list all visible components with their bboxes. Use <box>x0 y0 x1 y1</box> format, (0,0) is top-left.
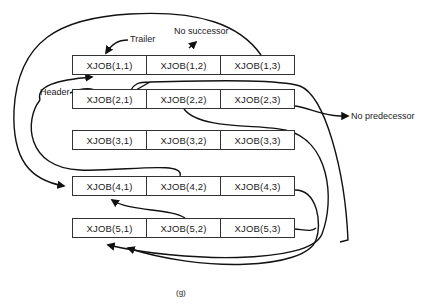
job-cell: XJOB(3,1) <box>73 131 147 149</box>
job-row-3: XJOB(3,1) XJOB(3,2) XJOB(3,3) <box>72 130 295 150</box>
figure-caption: (g) <box>176 288 186 297</box>
job-cell: XJOB(4,2) <box>147 177 221 195</box>
job-cell: XJOB(5,1) <box>73 219 147 237</box>
job-cell: XJOB(1,1) <box>73 56 147 74</box>
trailer-label: Trailer <box>130 34 155 44</box>
no-successor-label: No successor <box>174 26 229 36</box>
job-cell: XJOB(3,2) <box>147 131 221 149</box>
job-cell: XJOB(2,1) <box>73 90 147 108</box>
job-cell: XJOB(2,2) <box>147 90 221 108</box>
job-row-5: XJOB(5,1) XJOB(5,2) XJOB(5,3) <box>72 218 295 238</box>
job-cell: XJOB(1,3) <box>221 56 294 74</box>
connector-arrows <box>0 0 436 308</box>
header-label: Header <box>40 87 70 97</box>
job-cell: XJOB(1,2) <box>147 56 221 74</box>
job-cell: XJOB(5,2) <box>147 219 221 237</box>
no-predecessor-label: No predecessor <box>351 111 415 121</box>
job-row-4: XJOB(4,1) XJOB(4,2) XJOB(4,3) <box>72 176 295 196</box>
job-cell: XJOB(4,3) <box>221 177 294 195</box>
job-cell: XJOB(5,3) <box>221 219 294 237</box>
job-row-1: XJOB(1,1) XJOB(1,2) XJOB(1,3) <box>72 55 295 75</box>
job-cell: XJOB(3,3) <box>221 131 294 149</box>
job-cell: XJOB(2,3) <box>221 90 294 108</box>
job-row-2: XJOB(2,1) XJOB(2,2) XJOB(2,3) <box>72 89 295 109</box>
job-cell: XJOB(4,1) <box>73 177 147 195</box>
